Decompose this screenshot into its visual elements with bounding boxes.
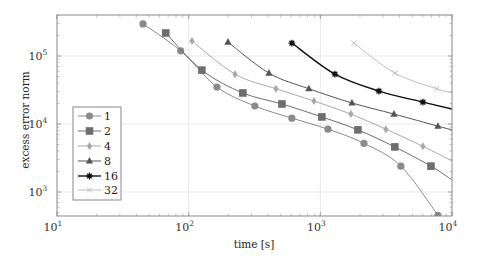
diamond-marker-icon <box>232 70 237 78</box>
square-marker-icon <box>239 89 247 97</box>
x-axis-label: time [s] <box>234 238 275 250</box>
y-axis-tick-labels: 103104105 <box>29 48 48 199</box>
circle-marker-icon <box>213 83 220 90</box>
star-marker-icon <box>288 40 295 47</box>
star-marker-icon <box>331 71 338 78</box>
y-tick-label: 103 <box>29 184 48 199</box>
legend-label: 16 <box>104 170 118 183</box>
x-axis-tick-labels: 101102103104 <box>44 219 458 234</box>
square-marker-icon <box>198 66 206 74</box>
x-marker-icon <box>351 40 356 45</box>
star-marker-icon <box>376 88 383 95</box>
circle-marker-icon <box>139 20 146 27</box>
series-line <box>292 43 452 109</box>
legend: 12481632 <box>73 107 121 200</box>
circle-marker-icon <box>177 47 184 54</box>
x-marker-icon <box>434 86 439 91</box>
legend-label: 32 <box>104 184 118 197</box>
diamond-marker-icon <box>420 142 425 150</box>
x-tick-label: 101 <box>44 219 63 234</box>
circle-marker-icon <box>251 102 258 109</box>
square-marker-icon <box>162 29 170 37</box>
x-tick-label: 103 <box>307 219 326 234</box>
series-line <box>228 42 452 130</box>
series-line <box>192 41 452 161</box>
circle-marker-icon <box>360 140 367 147</box>
legend-label: 4 <box>104 140 111 153</box>
y-axis-label: excess error norm <box>19 71 31 168</box>
diamond-marker-icon <box>189 37 194 45</box>
x-tick-label: 104 <box>439 219 458 234</box>
square-marker-icon <box>318 113 326 121</box>
legend-label: 1 <box>104 110 111 123</box>
star-marker-icon <box>419 99 426 106</box>
square-marker-icon <box>354 126 362 134</box>
legend-label: 2 <box>104 125 111 138</box>
diamond-marker-icon <box>273 85 278 93</box>
square-marker-icon <box>278 100 286 108</box>
circle-marker-icon <box>324 126 331 133</box>
series-1 <box>139 20 441 219</box>
square-marker-icon <box>391 143 399 151</box>
circle-marker-icon <box>288 115 295 122</box>
x-marker-icon <box>392 71 397 76</box>
square-marker-icon <box>427 162 435 170</box>
diamond-marker-icon <box>311 97 316 105</box>
series-32 <box>351 40 452 93</box>
triangle-marker-icon <box>224 38 231 45</box>
legend-label: 8 <box>104 155 111 168</box>
square-marker-icon <box>86 127 94 135</box>
x-tick-label: 102 <box>175 219 194 234</box>
series-line <box>354 43 452 93</box>
y-tick-label: 104 <box>29 116 48 131</box>
diamond-marker-icon <box>348 110 353 118</box>
y-tick-label: 105 <box>29 48 48 63</box>
diamond-marker-icon <box>383 125 388 133</box>
star-marker-icon <box>86 173 93 180</box>
circle-marker-icon <box>86 112 93 119</box>
circle-marker-icon <box>397 163 404 170</box>
excess-error-chart: 101102103104 103104105 time [s] excess e… <box>0 0 477 263</box>
plot-area <box>139 20 452 219</box>
circle-marker-icon <box>434 212 441 219</box>
triangle-marker-icon <box>265 69 272 76</box>
